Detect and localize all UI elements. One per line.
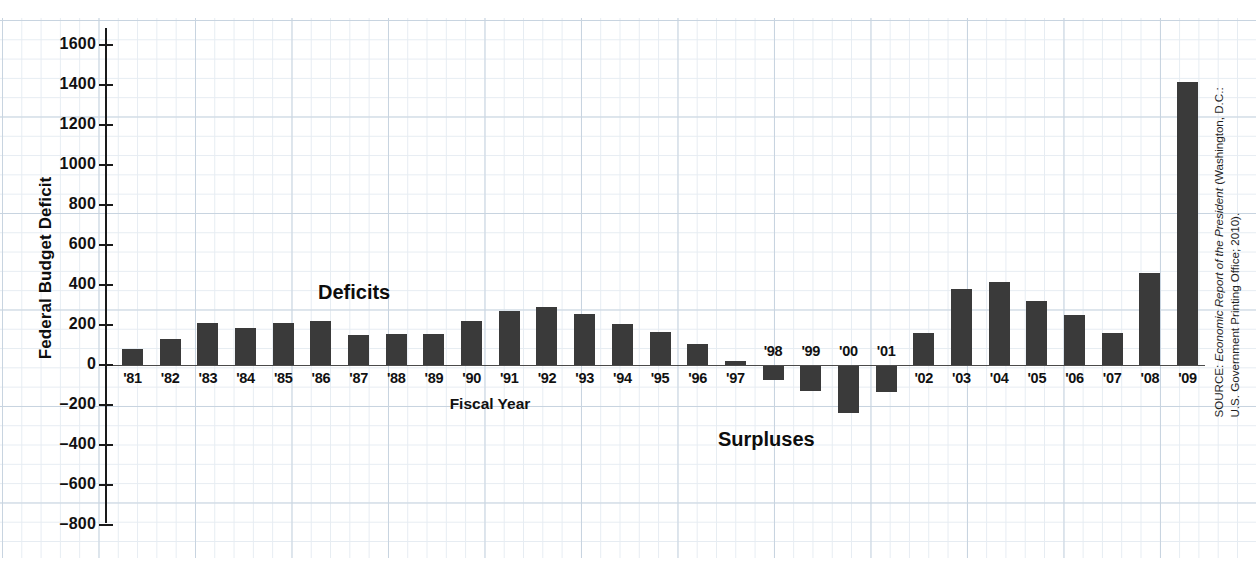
y-tick-mark: [99, 204, 113, 206]
bar: [386, 334, 407, 365]
bar: [1102, 333, 1123, 365]
y-tick-mark: [99, 164, 113, 166]
bar: [1177, 82, 1198, 365]
y-tick-label: –600: [6, 475, 96, 493]
bar: [348, 335, 369, 365]
bar: [612, 324, 633, 365]
x-tick-label: '86: [301, 370, 341, 386]
bar: [197, 323, 218, 365]
bar: [574, 314, 595, 365]
source-label: SOURCE:: [1212, 361, 1225, 417]
bar: [763, 366, 784, 380]
bar: [650, 332, 671, 365]
y-tick-mark: [99, 444, 113, 446]
x-tick-label: '94: [602, 370, 642, 386]
x-tick-label: '84: [226, 370, 266, 386]
x-axis-title: Fiscal Year: [420, 395, 560, 413]
bar: [951, 289, 972, 365]
x-tick-label: '93: [565, 370, 605, 386]
y-tick-label: –800: [6, 515, 96, 533]
bar: [1064, 315, 1085, 365]
bar: [725, 361, 746, 365]
x-tick-label: '00: [828, 343, 868, 359]
source-title: Economic Report of the President: [1212, 188, 1225, 361]
y-tick-label: 1600: [6, 35, 96, 53]
y-tick-label: –400: [6, 435, 96, 453]
x-tick-label: '06: [1055, 370, 1095, 386]
bar: [913, 333, 934, 365]
bar: [461, 321, 482, 365]
y-tick-mark: [99, 324, 113, 326]
y-tick-mark: [99, 244, 113, 246]
bar: [1139, 273, 1160, 365]
x-tick-label: '03: [941, 370, 981, 386]
y-tick-mark: [99, 44, 113, 46]
x-tick-label: '92: [527, 370, 567, 386]
bar: [122, 349, 143, 365]
y-tick-mark: [99, 404, 113, 406]
x-tick-label: '02: [904, 370, 944, 386]
x-tick-label: '90: [452, 370, 492, 386]
x-tick-label: '97: [715, 370, 755, 386]
y-tick-mark: [99, 484, 113, 486]
x-tick-label: '82: [150, 370, 190, 386]
y-axis-title: Federal Budget Deficit: [36, 138, 56, 398]
bar: [1026, 301, 1047, 365]
plot-area: 16001400120010008006004002000–200–400–60…: [0, 0, 1256, 576]
x-tick-label: '96: [678, 370, 718, 386]
bar: [876, 366, 897, 392]
x-tick-label: '87: [339, 370, 379, 386]
y-tick-mark: [99, 284, 113, 286]
y-tick-mark: [99, 364, 113, 366]
bar: [800, 366, 821, 391]
y-tick-mark: [99, 84, 113, 86]
bar: [687, 344, 708, 365]
x-tick-label: '85: [263, 370, 303, 386]
source-note: SOURCE: Economic Report of the President…: [1211, 78, 1242, 418]
x-tick-label: '83: [188, 370, 228, 386]
x-tick-label: '04: [979, 370, 1019, 386]
y-tick-label: 1200: [6, 115, 96, 133]
bar: [499, 311, 520, 365]
x-tick-label: '99: [791, 343, 831, 359]
y-tick-label: 1400: [6, 75, 96, 93]
chart-page: 16001400120010008006004002000–200–400–60…: [0, 0, 1256, 576]
bar: [423, 334, 444, 365]
bar: [536, 307, 557, 365]
bar: [160, 339, 181, 365]
x-tick-label: '08: [1130, 370, 1170, 386]
x-tick-label: '98: [753, 343, 793, 359]
bar: [273, 323, 294, 365]
x-tick-label: '88: [376, 370, 416, 386]
annotation-surpluses: Surpluses: [718, 428, 815, 451]
bar: [838, 366, 859, 413]
x-tick-label: '01: [866, 343, 906, 359]
annotation-deficits: Deficits: [318, 281, 390, 304]
x-tick-label: '09: [1168, 370, 1208, 386]
x-tick-label: '07: [1092, 370, 1132, 386]
y-tick-mark: [99, 524, 113, 526]
bar: [235, 328, 256, 365]
bar: [310, 321, 331, 365]
bar: [989, 282, 1010, 365]
x-tick-label: '89: [414, 370, 454, 386]
x-tick-label: '91: [489, 370, 529, 386]
y-tick-mark: [99, 124, 113, 126]
x-tick-label: '95: [640, 370, 680, 386]
x-tick-label: '05: [1017, 370, 1057, 386]
y-axis-line: [105, 28, 107, 523]
x-tick-label: '81: [113, 370, 153, 386]
zero-baseline: [105, 365, 1205, 366]
